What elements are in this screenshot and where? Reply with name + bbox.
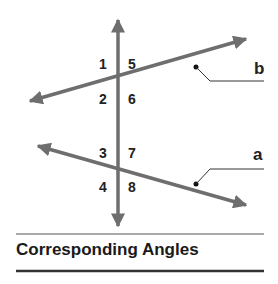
angle-label-3: 3 bbox=[99, 145, 107, 161]
angle-label-8: 8 bbox=[128, 179, 136, 195]
angle-label-2: 2 bbox=[99, 91, 107, 107]
line-b bbox=[30, 39, 246, 101]
angle-label-1: 1 bbox=[99, 56, 107, 72]
line-a-label: a bbox=[253, 145, 263, 164]
angle-label-5: 5 bbox=[128, 56, 136, 72]
angle-label-4: 4 bbox=[99, 179, 107, 195]
line-a bbox=[38, 146, 246, 205]
line-b-label: b bbox=[254, 59, 264, 78]
angle-label-7: 7 bbox=[128, 145, 136, 161]
angle-label-6: 6 bbox=[128, 91, 136, 107]
line-a-callout: a bbox=[194, 145, 265, 187]
diagram-title: Corresponding Angles bbox=[16, 240, 199, 260]
line-b-callout: b bbox=[194, 59, 265, 81]
